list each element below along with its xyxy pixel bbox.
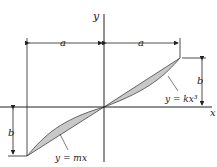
dim-label-a-left: a (60, 37, 66, 48)
x-axis-label: x (210, 107, 216, 118)
leader-lower (60, 134, 68, 150)
shaded-region-left (27, 107, 104, 156)
curve-label-lower: y = mx (54, 153, 87, 163)
dim-label-b-left: b (8, 127, 14, 138)
curve-label-upper: y = kx³ (164, 94, 198, 104)
dim-label-b-right: b (197, 75, 203, 86)
leader-upper (168, 76, 178, 91)
area-diagram: y x a a b b y = kx³ y = mx (0, 0, 217, 167)
y-axis-label: y (92, 10, 100, 23)
dim-label-a-right: a (138, 37, 144, 48)
